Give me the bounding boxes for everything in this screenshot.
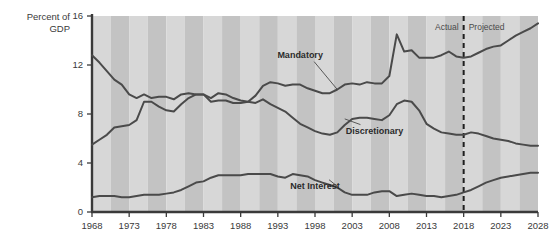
x-tick-label: 1968 [81,220,102,231]
series-label-mandatory: Mandatory [277,50,323,60]
x-tick-label: 1988 [230,220,251,231]
x-tick-label: 1983 [193,220,214,231]
spending-categories-line-chart: 0481216196819731978198319881993199820032… [0,0,551,250]
y-tick-label: 12 [72,59,83,70]
x-tick-label: 1993 [267,220,288,231]
x-tick-label: 2013 [416,220,437,231]
x-tick-label: 1973 [119,220,140,231]
chart-container: 0481216196819731978198319881993199820032… [0,0,551,250]
y-tick-label: 0 [78,206,83,217]
x-tick-label: 2008 [379,220,400,231]
y-axis-title: Percent of GDP [27,11,71,34]
x-tick-label: 2023 [490,220,511,231]
x-tick-label: 2003 [342,220,363,231]
x-tick-label: 2028 [527,220,548,231]
y-axis-title-line2: GDP [49,23,70,34]
x-tick-label: 1998 [304,220,325,231]
y-tick-label: 16 [72,10,83,21]
actual-label: Actual [435,22,459,32]
x-tick-label: 2018 [453,220,474,231]
series-label-discretionary: Discretionary [346,126,404,136]
y-tick-label: 4 [78,157,83,168]
y-axis-title-line1: Percent of [27,11,71,22]
y-tick-label: 8 [78,108,83,119]
projected-label: Projected [469,22,505,32]
x-tick-label: 1978 [156,220,177,231]
